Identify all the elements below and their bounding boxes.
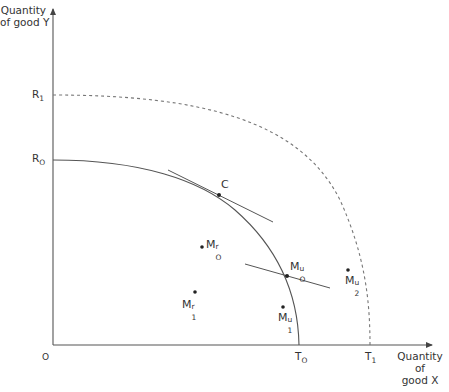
- label-C: C: [221, 178, 229, 191]
- ppf-diagram: [0, 0, 449, 392]
- frontier-solid-R0-T0: [53, 160, 299, 345]
- label-M2u-sup: u: [355, 278, 360, 287]
- label-M1r-sup: r: [192, 302, 195, 311]
- y-tick-R1-sub: 1: [39, 94, 44, 103]
- point-C: [217, 193, 221, 197]
- origin-text: O: [42, 352, 49, 362]
- label-M1u-sup: u: [288, 315, 293, 324]
- x-axis-title-line3: good X: [394, 374, 446, 386]
- label-M0r-sup: r: [216, 242, 219, 251]
- point-M0u: [285, 274, 289, 278]
- label-M1r: Mr1: [182, 298, 192, 311]
- label-M2u: Mu2: [345, 274, 355, 287]
- point-M0r: [200, 245, 204, 249]
- y-axis-title-line2: of good Y: [0, 16, 46, 28]
- point-M1r: [193, 290, 197, 294]
- x-tick-T1: T1: [365, 350, 376, 362]
- label-M1u: Mu1: [278, 311, 288, 324]
- label-M0r-sub: O: [216, 253, 222, 262]
- y-tick-R0-sub: O: [39, 158, 45, 167]
- point-M2u: [346, 268, 350, 272]
- x-axis-title: Quantity of good X: [394, 350, 446, 386]
- x-tick-T0-sub: O: [301, 356, 307, 365]
- label-M0u: MuO: [290, 260, 300, 273]
- x-tick-T1-sub: 1: [371, 356, 376, 365]
- y-axis-title: Quantity of good Y: [0, 4, 46, 28]
- x-axis-title-line1: Quantity: [394, 350, 446, 362]
- frontier-dashed-R1-T1: [53, 95, 370, 345]
- label-M1u-base: M: [278, 311, 288, 324]
- y-axis-title-line1: Quantity: [0, 4, 46, 16]
- label-M1r-base: M: [182, 298, 192, 311]
- label-M0u-sup: u: [300, 264, 305, 273]
- origin-label: O: [42, 350, 49, 362]
- label-M2u-base: M: [345, 274, 355, 287]
- label-C-text: C: [221, 178, 229, 191]
- label-M1u-sub: 1: [288, 326, 293, 335]
- x-axis-title-line2: of: [394, 362, 446, 374]
- y-tick-R1: R1: [32, 88, 44, 100]
- label-M0u-sub: O: [300, 275, 306, 284]
- label-M0r: MrO: [206, 238, 216, 251]
- x-tick-T0: TO: [295, 350, 307, 362]
- point-M1u: [281, 305, 285, 309]
- label-M1r-sub: 1: [192, 313, 197, 322]
- label-M2u-sub: 2: [355, 289, 360, 298]
- label-M0u-base: M: [290, 260, 300, 273]
- label-M0r-base: M: [206, 238, 216, 251]
- y-tick-R0: RO: [32, 152, 45, 164]
